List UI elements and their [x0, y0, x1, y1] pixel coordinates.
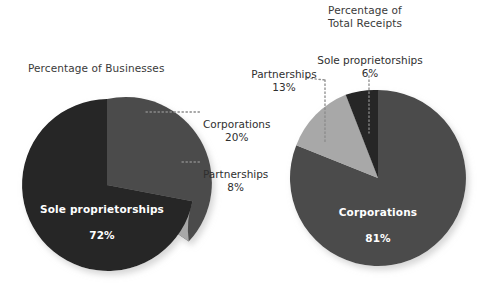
- left-callout-partnerships: Partnerships 8%: [203, 155, 268, 207]
- right-callout-partnerships-value: 13%: [243, 81, 325, 94]
- right-callout-sole-proprietorships-name: Sole proprietorships: [317, 54, 422, 66]
- two-pie-chart-figure: Percentage of Businesses Percentage of T…: [0, 0, 483, 291]
- right-callout-sole-proprietorships: Sole proprietorships 6%: [308, 41, 432, 93]
- left-pie: [22, 97, 212, 271]
- right-slice-label-value: 81%: [365, 232, 391, 244]
- right-slice-label-name: Corporations: [339, 206, 417, 218]
- right-callout-partnerships: Partnerships 13%: [243, 55, 325, 107]
- right-chart-title: Percentage of Total Receipts: [300, 4, 430, 30]
- left-chart-title: Percentage of Businesses: [28, 62, 165, 75]
- left-callout-corporations-value: 20%: [203, 131, 271, 144]
- left-slice-label-value: 72%: [89, 229, 115, 241]
- left-callout-corporations-name: Corporations: [203, 118, 271, 130]
- left-callout-partnerships-value: 8%: [203, 181, 268, 194]
- left-slice-label-sole-proprietorships: Sole proprietorships 72%: [22, 190, 182, 242]
- left-slice-label-name: Sole proprietorships: [40, 203, 164, 215]
- right-callout-sole-proprietorships-value: 6%: [308, 67, 432, 80]
- right-slice-label-corporations: Corporations 81%: [318, 193, 438, 245]
- left-callout-partnerships-name: Partnerships: [203, 168, 268, 180]
- left-callout-corporations: Corporations 20%: [203, 105, 271, 157]
- right-callout-partnerships-name: Partnerships: [251, 68, 316, 80]
